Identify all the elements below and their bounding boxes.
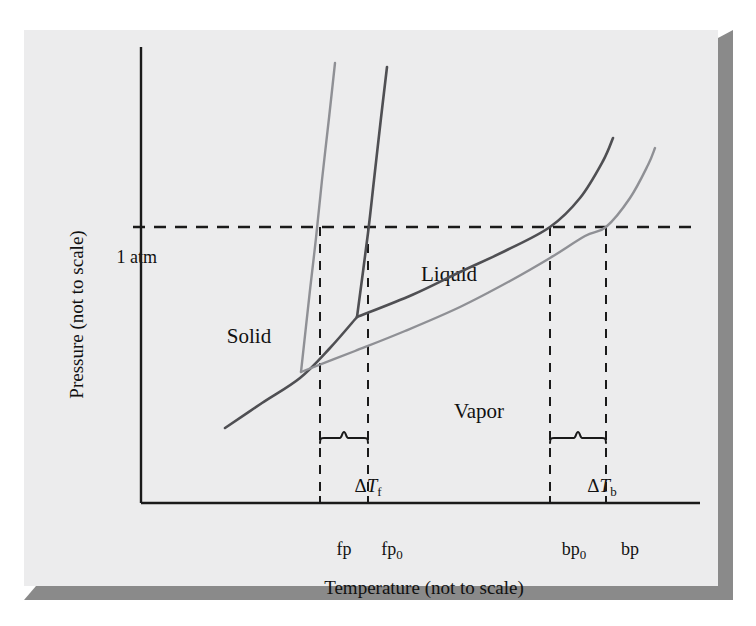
delta-subscript-f: f [377, 484, 381, 499]
delta-symbol-f: Δ [354, 475, 366, 496]
region-label-solid: Solid [199, 326, 299, 347]
x-tick-text-bp: bp [621, 539, 639, 559]
x-tick-label-bp0: bp0 [544, 540, 604, 561]
temperature-symbol-b: T [600, 475, 611, 496]
panel-shadow-right [718, 38, 733, 594]
x-tick-text-fp: fp [337, 539, 352, 559]
panel-bevel-top-right [718, 30, 733, 38]
phase-diagram-figure: Pressure (not to scale) Temperature (not… [0, 0, 756, 626]
panel-bevel-bottom-left [24, 586, 36, 600]
x-tick-text-bp0: bp [562, 539, 580, 559]
temperature-symbol-f: T [367, 475, 378, 496]
delta-subscript-b: b [610, 484, 617, 499]
region-label-liquid: Liquid [399, 264, 499, 285]
x-tick-label-bp: bp [600, 540, 660, 561]
region-label-vapor: Vapor [429, 401, 529, 422]
one-atm-label: 1 atm [79, 248, 157, 266]
y-axis-label: Pressure (not to scale) [67, 205, 86, 425]
annotation-delta-tf: ΔTf [333, 476, 403, 498]
diagram-panel: Pressure (not to scale) Temperature (not… [24, 30, 718, 586]
delta-symbol-b: Δ [587, 475, 599, 496]
x-tick-sub-fp0: 0 [396, 547, 403, 562]
x-tick-sub-bp0: 0 [580, 547, 587, 562]
x-tick-label-fp0: fp0 [362, 540, 422, 561]
x-tick-text-fp0: fp [381, 539, 396, 559]
annotation-delta-tb: ΔTb [567, 476, 637, 498]
x-axis-label: Temperature (not to scale) [264, 578, 584, 597]
